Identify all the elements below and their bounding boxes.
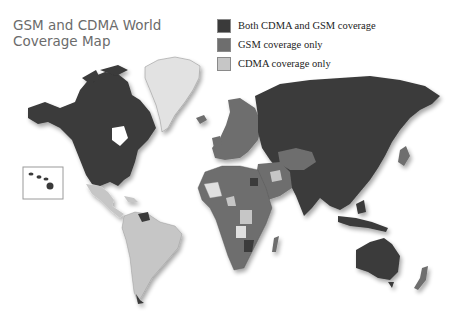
region-south-america: [122, 212, 182, 302]
world-map: [0, 0, 463, 311]
hawaii-inset: [23, 167, 63, 199]
region-australia: [356, 238, 400, 280]
region-europe: [212, 98, 262, 160]
region-asia: [255, 76, 440, 216]
region-madagascar: [272, 236, 279, 252]
region-mexico: [86, 184, 124, 218]
region-iceland: [196, 115, 207, 124]
region-africa: [198, 166, 272, 270]
region-new-zealand: [414, 266, 428, 290]
region-japan: [398, 146, 410, 166]
region-indonesia: [338, 216, 388, 232]
